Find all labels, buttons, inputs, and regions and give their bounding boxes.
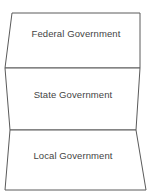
band-shape-federal[interactable] (5, 13, 140, 68)
diagram-canvas: Federal Government State Government Loca… (0, 0, 151, 196)
band-label-local: Local Government (33, 150, 112, 161)
band-label-federal: Federal Government (32, 28, 121, 39)
government-levels-diagram: Federal Government State Government Loca… (0, 0, 151, 196)
band-label-state: State Government (34, 89, 113, 100)
